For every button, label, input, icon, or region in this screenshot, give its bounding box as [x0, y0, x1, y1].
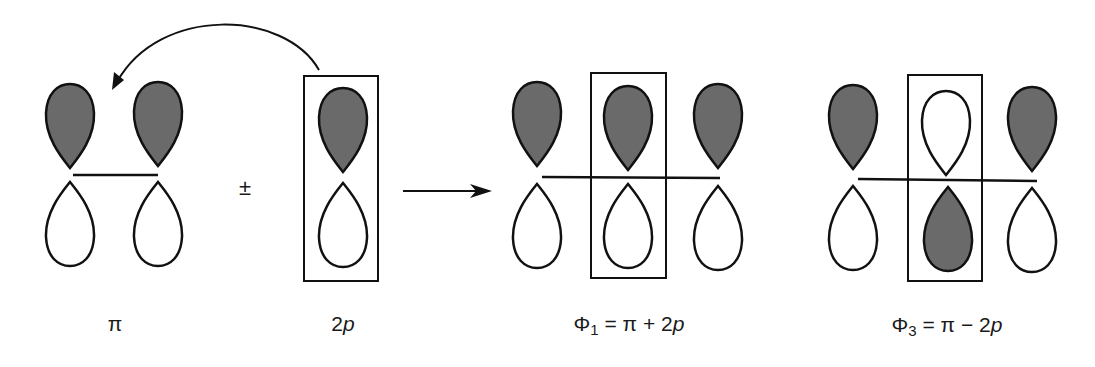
- phi3-label-symbol: Φ: [892, 313, 909, 336]
- 2p-label: 2p: [331, 312, 354, 336]
- plus-minus-operator: ±: [239, 175, 251, 201]
- 2p-label-letter: p: [343, 312, 355, 335]
- pi-orbital-group: [46, 82, 182, 266]
- orbital-diagram: [0, 0, 1095, 367]
- phi1-label-subscript: 1: [590, 321, 598, 338]
- phi1-label-p: p: [673, 312, 685, 335]
- phi1-label: Φ1 = π + 2p: [574, 312, 685, 338]
- phi3-lobe-3-bottom-empty: [1008, 188, 1056, 272]
- phi1-label-expression: = π + 2: [599, 312, 673, 335]
- pi-lobe-2-top-shaded: [134, 82, 182, 166]
- phi3-bond-line: [858, 179, 1037, 181]
- phi1-bond-line: [542, 177, 720, 178]
- 2p-lobe-top-shaded: [319, 88, 367, 172]
- pi-label-text: π: [108, 312, 123, 335]
- phi1-lobe-1-top-shaded: [513, 82, 561, 166]
- phi1-orbital-group: [513, 73, 742, 278]
- 2p-label-number: 2: [331, 312, 343, 335]
- pi-lobe-1-bottom-empty: [46, 182, 94, 266]
- curved-arrow-icon: [112, 25, 319, 90]
- phi3-label-expression: = π − 2: [917, 313, 991, 336]
- phi1-lobe-3-bottom-empty: [694, 186, 742, 270]
- phi3-lobe-3-top-shaded: [1008, 87, 1056, 171]
- phi3-label-p: p: [991, 313, 1003, 336]
- 2p-orbital-group: [304, 76, 378, 281]
- right-arrow-icon: [403, 184, 492, 198]
- pi-lobe-2-bottom-empty: [134, 182, 182, 266]
- 2p-lobe-bottom-empty: [319, 183, 367, 267]
- phi1-lobe-2-top-shaded: [604, 86, 652, 170]
- pi-label: π: [108, 312, 123, 336]
- phi1-lobe-1-bottom-empty: [513, 184, 561, 268]
- phi1-label-symbol: Φ: [574, 312, 591, 335]
- phi3-label-subscript: 3: [908, 322, 916, 339]
- phi3-lobe-1-bottom-empty: [829, 186, 877, 270]
- phi3-lobe-1-top-shaded: [829, 85, 877, 169]
- phi3-label: Φ3 = π − 2p: [892, 313, 1003, 339]
- phi1-lobe-2-bottom-empty: [604, 184, 652, 268]
- pi-lobe-1-top-shaded: [46, 84, 94, 168]
- phi3-orbital-group: [829, 75, 1056, 281]
- phi1-lobe-3-top-shaded: [694, 84, 742, 168]
- phi3-lobe-2-top-empty: [922, 91, 970, 175]
- phi3-lobe-2-bottom-shaded: [924, 187, 972, 271]
